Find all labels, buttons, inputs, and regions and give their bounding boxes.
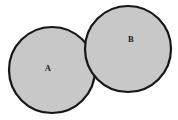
circle-group-b[interactable]: B	[85, 6, 171, 92]
circle-a-label: A	[45, 63, 52, 73]
circle-b-label: B	[128, 34, 134, 44]
circle-group-a[interactable]: A	[9, 27, 95, 113]
circle-b[interactable]	[85, 6, 171, 92]
diagram-svg: A B	[0, 0, 178, 120]
figure-canvas: A B	[0, 0, 178, 120]
circle-a[interactable]	[9, 27, 95, 113]
